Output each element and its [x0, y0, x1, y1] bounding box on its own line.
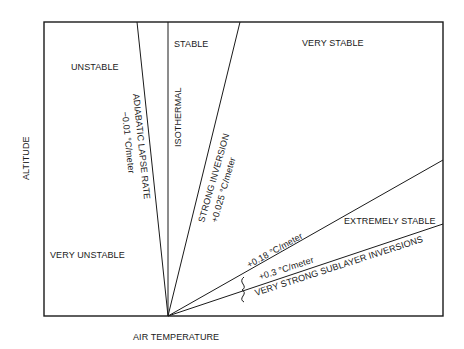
region-extremely-stable: EXTREMELY STABLE: [344, 216, 436, 226]
x-axis-label: AIR TEMPERATURE: [133, 332, 219, 342]
region-stable: STABLE: [174, 39, 208, 49]
brace-icon: [242, 277, 245, 302]
y-axis-label: ALTITUDE: [21, 136, 31, 180]
stability-diagram: UNSTABLE VERY UNSTABLE STABLE VERY STABL…: [0, 0, 464, 349]
isothermal-label: ISOTHERMAL: [173, 87, 183, 147]
region-very-stable: VERY STABLE: [302, 38, 364, 48]
region-unstable: UNSTABLE: [71, 62, 119, 72]
region-very-unstable: VERY UNSTABLE: [50, 250, 125, 260]
